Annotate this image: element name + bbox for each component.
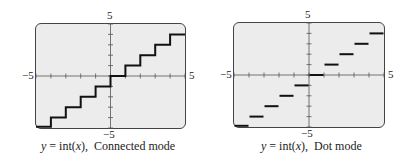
caption-close: ),	[301, 139, 308, 153]
x-max-label: 5	[388, 69, 394, 80]
x-max-label: 5	[189, 70, 195, 81]
caption: y = int(x), Dot mode	[261, 139, 362, 154]
x-min-label: −5	[220, 69, 232, 80]
y-max-label: 5	[305, 9, 311, 20]
caption-mode: Dot mode	[314, 139, 362, 153]
caption-mode: Connected mode	[94, 139, 175, 153]
connected-mode-panel: 5 −5 −5 5 y = int(x), Connected mode	[0, 0, 205, 163]
caption-eq: = int(	[46, 139, 75, 153]
caption-close: ),	[81, 139, 88, 153]
caption: y = int(x), Connected mode	[41, 139, 175, 154]
dot-mode-panel: 5 −5 −5 5 y = int(x), Dot mode	[205, 0, 410, 163]
caption-eq: = int(	[266, 139, 295, 153]
x-min-label: −5	[22, 70, 34, 81]
axes	[234, 23, 384, 127]
y-max-label: 5	[107, 10, 113, 21]
y-min-label: −5	[301, 128, 313, 139]
